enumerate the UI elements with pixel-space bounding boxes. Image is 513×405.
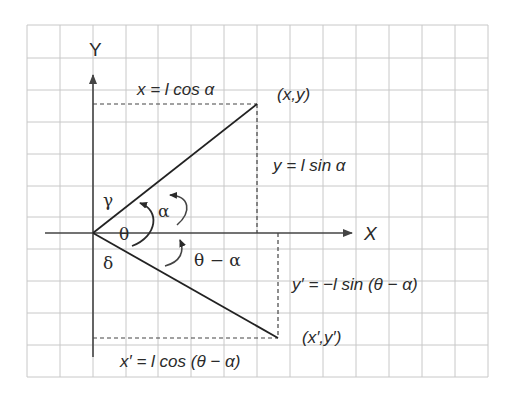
alpha-label: α [158, 201, 170, 221]
x-prime-equation: x′ = l cos (θ − α) [119, 352, 240, 371]
theta-minus-alpha-arc-icon [165, 240, 182, 266]
x-axis-label: X [363, 223, 378, 244]
theta-label: θ [119, 224, 129, 244]
gamma-label: γ [103, 190, 113, 210]
x-equation: x = l cos α [136, 80, 216, 99]
alpha-arc-icon [170, 195, 187, 225]
rotation-diagram: X Y γ θ α δ θ − α x = l cos α y = l sin … [0, 0, 513, 405]
y-axis-label: Y [89, 39, 102, 60]
theta-minus-alpha-label: θ − α [194, 250, 241, 270]
grid [27, 25, 488, 377]
point-xy-label: (x,y) [277, 85, 310, 104]
projection-lines [93, 104, 278, 338]
y-equation: y = l sin α [272, 156, 347, 175]
upper-segment [93, 104, 257, 233]
delta-label: δ [103, 253, 113, 273]
theta-arc-icon [132, 203, 153, 246]
point-xy-prime-label: (x′,y′) [302, 328, 341, 347]
y-prime-equation: y′ = −l sin (θ − α) [291, 275, 418, 294]
